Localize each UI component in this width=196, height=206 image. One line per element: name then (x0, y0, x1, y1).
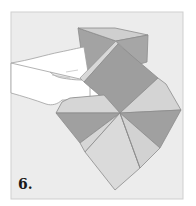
step-number-label: 6. (18, 176, 33, 192)
